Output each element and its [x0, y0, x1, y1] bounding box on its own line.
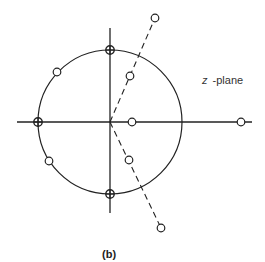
- zero-outer-lower: [157, 224, 165, 232]
- lower-ray-dashed-line: [110, 122, 161, 228]
- figure-caption: (b): [102, 248, 116, 260]
- zeros: [45, 14, 245, 232]
- crossed-zero-left: [34, 118, 42, 126]
- zero-inner-lower: [125, 156, 133, 164]
- crossed-zero-top: [106, 46, 114, 54]
- crossed-zero-bottom: [106, 190, 114, 198]
- z-plane-label: z -plane: [202, 74, 243, 86]
- zero-lower-left-on-circle: [45, 157, 53, 165]
- z-variable: z: [202, 74, 208, 86]
- zero-inner-real: [128, 118, 136, 126]
- pole-zero-plot: [0, 0, 265, 262]
- upper-ray-dashed-line: [110, 18, 155, 122]
- zero-outer-real: [237, 118, 245, 126]
- zero-outer-upper: [151, 14, 159, 22]
- plane-text: -plane: [210, 74, 244, 86]
- zero-upper-left-on-circle: [53, 68, 61, 76]
- zero-inner-upper: [126, 72, 134, 80]
